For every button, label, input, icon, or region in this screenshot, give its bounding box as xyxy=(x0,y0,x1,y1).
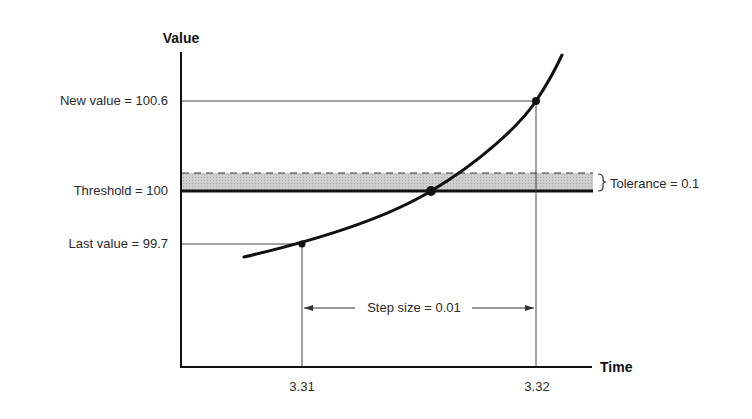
crossing-point xyxy=(426,186,436,196)
last-value-point xyxy=(299,241,306,248)
new-value-label: New value = 100.6 xyxy=(60,93,168,108)
threshold-diagram: Value Time New value = 100.6 Threshold =… xyxy=(0,0,752,419)
threshold-label: Threshold = 100 xyxy=(74,183,168,198)
y-axis-title: Value xyxy=(163,30,200,46)
value-curve xyxy=(244,55,562,257)
new-value-point xyxy=(532,97,540,105)
tolerance-band xyxy=(182,173,593,191)
tolerance-label: Tolerance = 0.1 xyxy=(610,176,699,191)
x-tick-label: 3.31 xyxy=(289,379,314,394)
tolerance-brace-icon xyxy=(598,174,606,191)
x-axis-title: Time xyxy=(600,359,633,375)
step-size-label: Step size = 0.01 xyxy=(367,300,461,315)
x-tick-label: 3.32 xyxy=(524,379,549,394)
last-value-label: Last value = 99.7 xyxy=(69,236,168,251)
